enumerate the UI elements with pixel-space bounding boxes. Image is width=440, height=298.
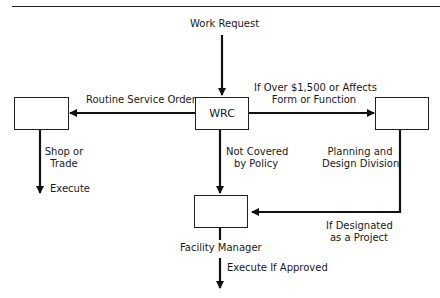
label-shop-line1: Shop or xyxy=(44,146,84,158)
label-planning-line2: Design Division xyxy=(322,158,398,170)
label-over-1500-line1: If Over $1,500 or Affects xyxy=(254,82,374,94)
label-execute: Execute xyxy=(50,183,90,195)
label-not-covered-line2: by Policy xyxy=(226,158,286,170)
label-planning-line1: Planning and xyxy=(322,146,398,158)
label-designated-line2: as a Project xyxy=(326,232,392,244)
node-planning-design xyxy=(375,97,429,130)
label-not-covered: Not Covered by Policy xyxy=(226,146,286,170)
label-execute-if-approved: Execute If Approved xyxy=(227,262,328,274)
label-shop-or-trade: Shop or Trade xyxy=(44,146,84,170)
node-shop-or-trade xyxy=(14,97,69,130)
label-over-1500-line2: Form or Function xyxy=(254,94,374,106)
node-facility-manager xyxy=(194,195,248,228)
label-shop-line2: Trade xyxy=(44,158,84,170)
label-planning-design: Planning and Design Division xyxy=(322,146,398,170)
label-work-request: Work Request xyxy=(190,18,259,30)
arrow-planning-to-facility xyxy=(252,130,400,212)
node-wrc-label: WRC xyxy=(196,98,248,129)
label-routine-service-order: Routine Service Order xyxy=(86,94,196,106)
label-facility-manager: Facility Manager xyxy=(180,242,262,254)
label-if-designated: If Designated as a Project xyxy=(326,220,392,244)
label-not-covered-line1: Not Covered xyxy=(226,146,286,158)
label-designated-line1: If Designated xyxy=(326,220,392,232)
label-over-1500: If Over $1,500 or Affects Form or Functi… xyxy=(254,82,374,106)
node-wrc: WRC xyxy=(195,97,249,130)
